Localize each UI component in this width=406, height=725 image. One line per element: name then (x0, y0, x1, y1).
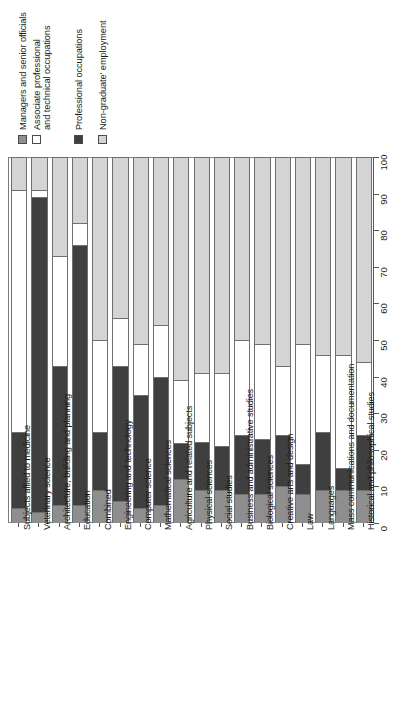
category-label: Biological sciences (265, 455, 275, 530)
value-axis-label: 10 (378, 487, 389, 498)
category-label: Historical and philosophical studies (366, 392, 376, 530)
category-label: Computer science (143, 458, 153, 530)
bar-segment (174, 157, 188, 380)
legend-label: Non-graduate' employment (98, 21, 108, 130)
bar-segment (53, 157, 67, 256)
bar-15 (295, 157, 311, 523)
category-label: Languages (326, 486, 336, 530)
legend-item-2: Associate professionaland technical occu… (32, 26, 53, 145)
bar-segment (255, 344, 269, 439)
category-tick (261, 523, 262, 527)
bar-5 (92, 157, 108, 523)
value-axis: 0102030405060708090100 (373, 157, 406, 523)
value-axis-label: 30 (378, 413, 389, 424)
legend-label: Managers and senior officials (18, 12, 28, 130)
category-tick (59, 523, 60, 527)
bar-segment (316, 355, 330, 432)
legend-label: Professional occupations (74, 29, 84, 130)
category-label: Education (82, 490, 92, 530)
category-tick (160, 523, 161, 527)
value-axis-label: 20 (378, 450, 389, 461)
category-tick (140, 523, 141, 527)
category-label: Business and administrative studies (245, 389, 255, 530)
bar-segment (93, 157, 107, 340)
value-axis-label: 40 (378, 377, 389, 388)
category-tick (201, 523, 202, 527)
category-tick (343, 523, 344, 527)
bar-segment (255, 157, 269, 344)
bar-segment (73, 223, 87, 245)
legend-item-3: Professional occupations (74, 29, 84, 144)
bar-segment (296, 157, 310, 344)
value-axis-label: 50 (378, 340, 389, 351)
bar-segment (113, 157, 127, 318)
category-label: Agriculture and related subjects (184, 406, 194, 530)
bar-segment (73, 245, 87, 505)
category-tick (120, 523, 121, 527)
category-tick (241, 523, 242, 527)
bar-segment (296, 344, 310, 465)
bar-segment (357, 157, 371, 362)
legend-swatch-icon (32, 135, 41, 144)
legend-item-1: Managers and senior officials (18, 12, 28, 144)
bar-segment (316, 157, 330, 355)
category-label: Creative arts and design (285, 434, 295, 530)
legend-label: Associate professionaland technical occu… (32, 26, 53, 131)
category-tick (79, 523, 80, 527)
category-label: Veterinary science (42, 457, 52, 530)
bar-segment (134, 157, 148, 344)
bar-segment (276, 366, 290, 436)
value-axis-label: 80 (378, 230, 389, 241)
bar-segment (32, 190, 46, 197)
bar-segment (134, 344, 148, 395)
bar-segment (53, 256, 67, 366)
bar-4 (72, 157, 88, 523)
bar-segment (93, 432, 107, 491)
category-tick (221, 523, 222, 527)
category-tick (302, 523, 303, 527)
category-label: Architecture, building and planning (62, 394, 72, 530)
category-label: Combined (103, 489, 113, 530)
bar-segment (12, 190, 26, 432)
bar-11 (214, 157, 230, 523)
category-label: Engineering and technology (123, 420, 133, 530)
category-tick (282, 523, 283, 527)
category-label: Mathematical sciences (163, 440, 173, 530)
bar-segment (235, 157, 249, 340)
legend-item-4: Non-graduate' employment (98, 21, 108, 144)
category-tick (99, 523, 100, 527)
category-tick (363, 523, 364, 527)
value-axis-label: 0 (378, 526, 389, 531)
bar-segment (73, 157, 87, 223)
value-axis-label: 60 (378, 304, 389, 315)
bar-segment (316, 432, 330, 491)
bar-segment (215, 373, 229, 446)
category-tick (180, 523, 181, 527)
bar-16 (315, 157, 331, 523)
category-label: Mass communications and documentation (346, 364, 356, 530)
legend-swatch-icon (98, 135, 107, 144)
category-tick (38, 523, 39, 527)
category-label: Subjects allied to medicine (22, 425, 32, 530)
category-label: Law (305, 514, 315, 530)
category-label: Social studies (224, 475, 234, 530)
value-axis-label: 100 (378, 155, 389, 171)
bar-segment (296, 464, 310, 493)
category-label: Physical sciences (204, 460, 214, 530)
bar-segment (93, 340, 107, 432)
category-axis: Subjects allied to medicineVeterinary sc… (8, 527, 373, 725)
value-axis-label: 70 (378, 267, 389, 278)
bar-segment (154, 325, 168, 376)
category-tick (322, 523, 323, 527)
bar-segment (276, 157, 290, 366)
bar-segment (195, 157, 209, 373)
legend-swatch-icon (74, 135, 83, 144)
bar-segment (113, 318, 127, 366)
bar-segment (336, 157, 350, 355)
bar-segment (195, 373, 209, 443)
chart-legend: Managers and senior officialsAssociate p… (8, 6, 128, 146)
legend-swatch-icon (18, 135, 27, 144)
bar-segment (32, 157, 46, 190)
value-axis-label: 90 (378, 194, 389, 205)
category-tick (18, 523, 19, 527)
